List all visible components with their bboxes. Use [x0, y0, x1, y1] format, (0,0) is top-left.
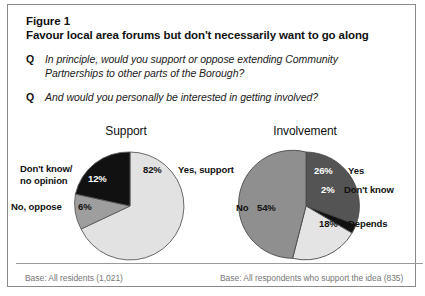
question-item: Q And would you personally be interested…: [26, 91, 411, 105]
figure-frame: Figure 1 Favour local area forums but do…: [7, 4, 416, 287]
base-note-involvement: Base: All respondents who support the id…: [220, 273, 403, 283]
question-line: Partnerships to other parts of the Borou…: [45, 67, 338, 81]
charts-area: Support Involvement Don't know/ no opini…: [8, 5, 417, 288]
label-support-dont-know-line2: no opinion: [20, 175, 68, 187]
question-marker: Q: [26, 53, 45, 67]
question-line: And would you personally be interested i…: [45, 91, 318, 105]
chart-title-support: Support: [71, 124, 181, 138]
label-involvement-no: No: [236, 202, 248, 214]
questions-block: Q In principle, would you support or opp…: [26, 53, 411, 116]
slice-yes: [306, 152, 359, 225]
label-support-dont-know-line1: Don't know/: [20, 163, 72, 175]
figure-title: Favour local area forums but don't neces…: [26, 28, 406, 42]
figure-header: Figure 1 Favour local area forums but do…: [26, 14, 406, 42]
value-involvement-yes: 26%: [314, 165, 333, 177]
base-note-support: Base: All residents (1,021): [25, 273, 123, 283]
slice-dont-know: [75, 152, 130, 206]
value-support-dont-know: 12%: [88, 173, 107, 185]
question-text: In principle, would you support or oppos…: [45, 53, 338, 80]
value-involvement-depends: 18%: [319, 218, 338, 230]
question-line: In principle, would you support or oppos…: [45, 53, 338, 67]
pie-chart-support: [70, 146, 190, 266]
question-item: Q In principle, would you support or opp…: [26, 53, 411, 80]
slice-dont-know: [306, 206, 356, 233]
slice-depends: [293, 206, 352, 260]
footer-divider: [16, 263, 423, 264]
label-involvement-dont-know: Don't know: [344, 184, 394, 196]
figure-number: Figure 1: [26, 14, 406, 28]
slice-no: [239, 150, 306, 258]
label-support-yes: Yes, support: [178, 164, 234, 176]
chart-title-involvement: Involvement: [246, 124, 364, 138]
value-support-oppose: 6%: [78, 201, 92, 213]
slice-yes-support: [81, 152, 184, 260]
label-involvement-depends: Depends: [348, 218, 387, 230]
value-support-yes: 82%: [143, 164, 162, 176]
question-marker: Q: [26, 91, 45, 105]
label-involvement-yes: Yes: [348, 165, 364, 177]
label-support-oppose: No, oppose: [11, 201, 62, 213]
question-text: And would you personally be interested i…: [45, 91, 318, 105]
slice-no-oppose: [75, 194, 130, 229]
pie-chart-involvement: [246, 146, 366, 266]
value-involvement-dont-know: 2%: [321, 184, 335, 196]
value-involvement-no: 54%: [257, 202, 276, 214]
